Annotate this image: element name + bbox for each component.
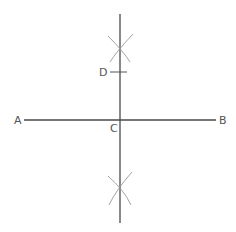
label-d: D — [99, 66, 107, 79]
label-b: B — [219, 114, 227, 127]
upper-arc-from-a — [110, 34, 133, 62]
label-a: A — [14, 114, 22, 127]
label-c: C — [110, 122, 118, 135]
construction-diagram: A B C D — [0, 0, 236, 232]
